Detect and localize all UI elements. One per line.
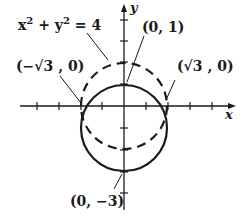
x-axis [20,102,236,110]
point-label-bottom: (0, −3) [70,193,124,209]
x-axis-label: x [224,107,233,122]
point-label-left: (−√3 , 0) [16,58,84,74]
coordinate-diagram: x2 + y2 = 4 (0, 1) (−√3 , 0) (√3 , 0) (0… [0,0,243,217]
point-label-top: (0, 1) [142,19,184,35]
point-label-right: (√3 , 0) [177,58,234,74]
y-axis-label: y [129,0,139,15]
leader-lines [60,33,175,189]
equation-label: x2 + y2 = 4 [18,15,101,33]
y-axis [120,4,128,210]
y-axis-arrow-icon [121,4,127,12]
